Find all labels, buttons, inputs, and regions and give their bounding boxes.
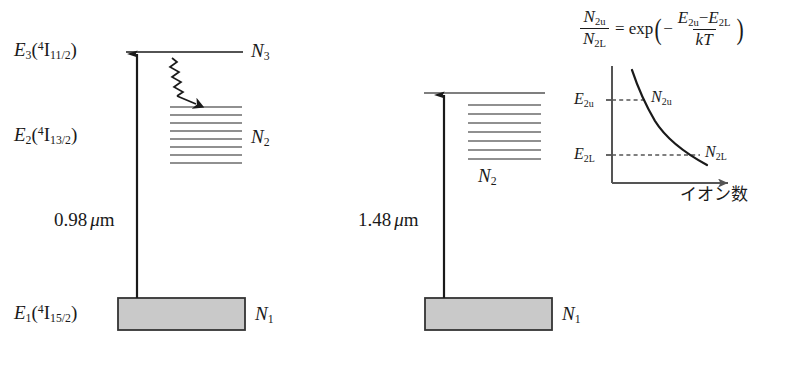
left-level-E1-ground-box (118, 298, 245, 330)
right-population-N1-label: N1 (562, 304, 581, 326)
inset-chart (606, 66, 728, 183)
figure-canvas: E3(4I11/2) N3 E2(4I13/2) N2 0.98μm E1(4I… (0, 0, 795, 376)
equation-close-paren: ) (737, 17, 744, 41)
equation-exp: exp (629, 19, 654, 39)
left-nonradiative-decay-arrow (170, 58, 196, 104)
left-population-N1-label: N1 (255, 304, 274, 326)
left-level-E3-energy-label: E3(4I11/2) (14, 40, 77, 62)
left-population-N3-label: N3 (251, 41, 270, 63)
equation-minus: − (663, 19, 673, 39)
inset-boltzmann-curve (632, 70, 707, 165)
right-pump-wavelength-label: 1.48μm (358, 210, 419, 229)
equation-open-paren: ( (655, 17, 662, 41)
left-level-E2-energy-label: E2(4I13/2) (14, 125, 77, 147)
equation-exponent-fraction: E2u−E2L kT (675, 9, 734, 49)
right-population-N2-label: N2 (478, 166, 497, 188)
inset-annotation-N2u: N2u (651, 89, 672, 107)
equation-lhs-fraction: N2u N2L (580, 8, 609, 49)
left-population-N2-label: N2 (251, 127, 270, 149)
left-level-E1-energy-label: E1(4I15/2) (14, 303, 77, 325)
inset-boltzmann-equation: N2u N2L = exp ( − E2u−E2L kT ) (578, 8, 745, 49)
equation-equals: = (615, 19, 625, 39)
left-pump-wavelength-label: 0.98μm (54, 210, 115, 229)
left-level-E2-sublevels (170, 107, 242, 163)
figure-svg (0, 0, 795, 376)
inset-ytick-E2u: E2u (574, 91, 594, 109)
inset-xaxis-label: イオン数 (680, 186, 748, 203)
right-level-E1-ground-box (425, 298, 552, 330)
inset-ytick-E2L: E2L (574, 146, 595, 164)
right-level-E2-sublevels (468, 105, 541, 159)
inset-annotation-N2L: N2L (705, 144, 727, 162)
